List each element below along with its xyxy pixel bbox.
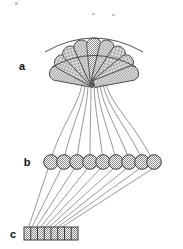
- part-b-circle-row: [44, 155, 162, 170]
- circle-node-group: [44, 155, 162, 170]
- label-b: b: [24, 156, 31, 168]
- a-to-b-bundle: [51, 84, 152, 159]
- label-c: c: [10, 228, 16, 240]
- b-to-c-bundle: [28, 169, 152, 229]
- part-c-segmented-bar: [24, 227, 78, 240]
- fan-petal-group: [48, 38, 141, 91]
- scan-artifacts: [15, 2, 115, 16]
- figure-canvas: a b c: [0, 0, 183, 249]
- part-a-fan: [45, 38, 143, 91]
- label-a: a: [19, 60, 26, 72]
